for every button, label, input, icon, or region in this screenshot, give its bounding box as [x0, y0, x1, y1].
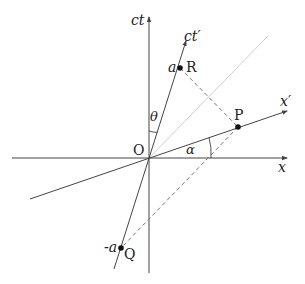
- point-p: [235, 124, 241, 130]
- r-coord-label: a: [168, 59, 176, 75]
- r-label: R: [186, 59, 197, 75]
- dashed-line-r-p: [180, 68, 238, 127]
- ct-prime-axis: [114, 41, 186, 269]
- x-prime-axis: [30, 111, 287, 199]
- point-q: [118, 245, 124, 251]
- q-label: Q: [124, 246, 135, 262]
- alpha-arc: [209, 138, 211, 159]
- theta-arc: [149, 131, 158, 132]
- q-coord-label: -a: [104, 239, 117, 255]
- point-r: [177, 65, 183, 71]
- ct-prime-axis-label: ct′: [184, 28, 201, 44]
- spacetime-diagram: ct ct′ x′ x O θ α a R P -a Q: [0, 0, 305, 284]
- alpha-label: α: [186, 142, 195, 157]
- p-label: P: [234, 107, 243, 123]
- theta-label: θ: [150, 109, 158, 124]
- light-cone-line: [149, 36, 268, 158]
- origin-label: O: [133, 142, 144, 158]
- ct-axis-label: ct: [131, 12, 145, 28]
- x-prime-axis-label: x′: [280, 93, 292, 109]
- x-axis-label: x: [278, 159, 286, 175]
